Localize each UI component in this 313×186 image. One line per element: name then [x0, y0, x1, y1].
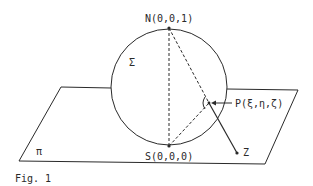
label-plane: π	[36, 146, 42, 157]
sphere	[111, 29, 227, 145]
label-z: Z	[243, 147, 249, 158]
line-n-p-dashed	[169, 28, 209, 103]
label-sphere: Σ	[129, 57, 135, 68]
label-south: S(0,0,0)	[145, 151, 193, 162]
label-north: N(0,0,1)	[145, 13, 193, 24]
point-p	[208, 102, 211, 105]
figure-caption: Fig. 1	[15, 173, 51, 184]
arrow-head	[211, 101, 216, 106]
label-p: P(ξ,η,ζ)	[235, 98, 283, 109]
point-s	[167, 144, 170, 147]
point-z	[235, 151, 238, 154]
line-s-p-dashed	[169, 103, 209, 146]
stereographic-projection-diagram: N(0,0,1) S(0,0,0) P(ξ,η,ζ) Z Σ π Fig. 1	[0, 0, 313, 186]
point-n	[167, 26, 170, 29]
line-p-z	[209, 103, 237, 153]
